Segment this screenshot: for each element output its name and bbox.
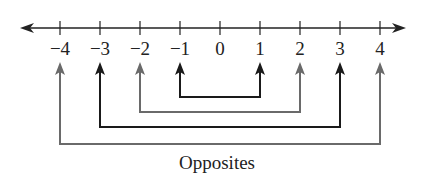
pair-bracket [95, 62, 345, 127]
tick-label: −4 [50, 38, 71, 59]
tick-label: 2 [295, 38, 305, 59]
caption: Opposites [179, 152, 255, 173]
opposite-pairs [55, 62, 385, 144]
number-line: −4−3−2−101234 [20, 21, 406, 59]
tick-label: −2 [130, 38, 150, 59]
tick-label: −3 [90, 38, 110, 59]
tick-label: 4 [375, 38, 385, 59]
tick-label: 0 [215, 38, 225, 59]
tick-label: −1 [170, 38, 190, 59]
tick-label: 1 [255, 38, 265, 59]
tick-label: 3 [335, 38, 345, 59]
number-line-diagram: −4−3−2−101234 Opposites [0, 0, 435, 179]
pair-bracket [135, 62, 305, 112]
pair-bracket [175, 62, 265, 97]
